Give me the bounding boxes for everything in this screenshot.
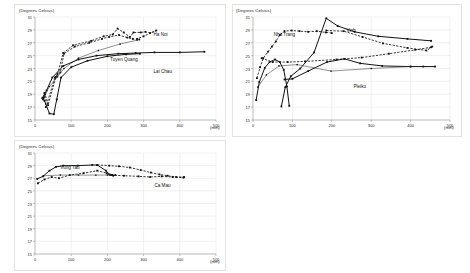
series-label-lai-chau: Lai Chau: [154, 69, 172, 74]
ytick-label: 25: [20, 53, 32, 58]
ytick-label: 29: [20, 27, 32, 32]
ytick-label: 23: [238, 66, 250, 71]
ytick-label: 25: [20, 188, 32, 193]
xtick-label: 200: [100, 123, 114, 128]
ytick-label: 19: [20, 92, 32, 97]
ytick-label: 27: [238, 40, 250, 45]
xtick-label: 500: [443, 123, 457, 128]
xtick-label: 500: [209, 123, 223, 128]
ytick-label: 21: [238, 79, 250, 84]
ytick-label: 27: [20, 176, 32, 181]
xtick-label: 100: [64, 257, 78, 262]
xtick-label: 300: [137, 123, 151, 128]
xtick-label: 400: [173, 123, 187, 128]
ytick-label: 17: [238, 105, 250, 110]
xtick-label: 0: [28, 123, 42, 128]
plot-central: [232, 4, 462, 137]
xtick-label: 300: [137, 257, 151, 262]
series-label-vung-tau: Vung Tau: [60, 165, 79, 170]
plot-northern: [14, 4, 226, 137]
ytick-label: 21: [20, 79, 32, 84]
series-label-tuyen-quang: Tuyen Quang: [110, 57, 138, 62]
series-label-pleiku: Pleiku: [353, 84, 366, 89]
ytick-label: 31: [20, 15, 32, 20]
series-label-ca-mau: Ca Mau: [154, 183, 170, 188]
ytick-label: 15: [238, 118, 250, 123]
ytick-label: 17: [20, 239, 32, 244]
xtick-label: 300: [364, 123, 378, 128]
ytick-label: 25: [238, 53, 250, 58]
ytick-label: 15: [20, 252, 32, 257]
plot-southern: [14, 140, 226, 271]
ytick-label: 31: [238, 15, 250, 20]
ytick-label: 19: [20, 226, 32, 231]
ytick-label: 23: [20, 66, 32, 71]
xtick-label: 200: [100, 257, 114, 262]
xtick-label: 0: [246, 123, 260, 128]
ytick-label: 21: [20, 214, 32, 219]
ytick-label: 31: [20, 151, 32, 156]
ytick-label: 29: [20, 163, 32, 168]
ytick-label: 29: [238, 27, 250, 32]
ytick-label: 15: [20, 118, 32, 123]
series-label-vinh: Vinh: [347, 28, 356, 33]
xtick-label: 500: [209, 257, 223, 262]
xtick-label: 100: [64, 123, 78, 128]
series-label-nha-trang: Nha Trang: [274, 32, 295, 37]
panel-southern: (Degrees Celsius) (mm) Southern area 312…: [14, 140, 226, 271]
ytick-label: 19: [238, 92, 250, 97]
panel-central: (Degrees Celsius) (mm) Central area 3129…: [232, 4, 462, 137]
ytick-label: 23: [20, 201, 32, 206]
xtick-label: 200: [325, 123, 339, 128]
series-label-ha-noi: Ha Noi: [154, 32, 168, 37]
xtick-label: 100: [285, 123, 299, 128]
ytick-label: 27: [20, 40, 32, 45]
ytick-label: 17: [20, 105, 32, 110]
xtick-label: 400: [173, 257, 187, 262]
xtick-label: 0: [28, 257, 42, 262]
panel-northern: (Degrees Celsius) (mm) Northern area 312…: [14, 4, 226, 137]
xtick-label: 400: [404, 123, 418, 128]
